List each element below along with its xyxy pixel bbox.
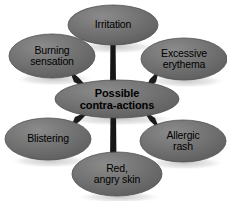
contra-actions-diagram: Irritation Burning sensation Excessive e… xyxy=(0,0,227,201)
node-shape-red-angry-skin[interactable] xyxy=(72,152,162,196)
node-shape-blistering[interactable] xyxy=(5,118,91,160)
node-shape-excessive-erythema[interactable] xyxy=(141,38,227,80)
node-shape-irritation[interactable] xyxy=(68,5,158,45)
node-shape-burning-sensation[interactable] xyxy=(9,34,95,78)
node-shape-hub[interactable] xyxy=(55,80,179,118)
node-shape-allergic-rash[interactable] xyxy=(140,120,226,162)
diagram-graphics xyxy=(0,0,227,201)
